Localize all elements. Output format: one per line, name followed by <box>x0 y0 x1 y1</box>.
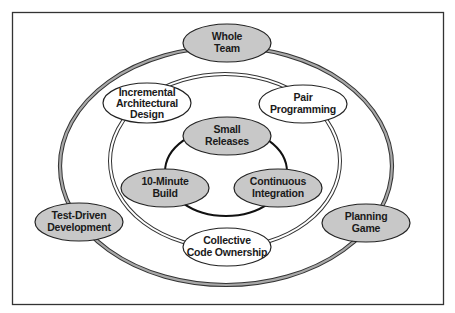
node-incremental-architectural-design: Incremental Architectural Design <box>103 83 191 123</box>
node-label: Code Ownership <box>187 246 268 258</box>
xp-practices-diagram: Whole Team Test-Driven Development Plann… <box>0 0 455 313</box>
node-label: Development <box>47 221 111 233</box>
node-label: Build <box>152 187 177 199</box>
node-pair-programming: Pair Programming <box>259 85 347 123</box>
node-collective-code-ownership: Collective Code Ownership <box>183 228 271 266</box>
node-label: Integration <box>252 187 304 199</box>
node-label: Planning <box>345 210 388 222</box>
node-label: Pair <box>293 91 312 103</box>
node-label: Continuous <box>250 175 307 187</box>
node-10-minute-build: 10-Minute Build <box>121 169 209 207</box>
node-label: Small <box>213 123 240 135</box>
node-label: Design <box>130 108 164 120</box>
node-whole-team: Whole Team <box>183 24 271 62</box>
node-label: Team <box>214 42 240 54</box>
node-label: Game <box>352 222 381 234</box>
node-small-releases: Small Releases <box>183 117 271 155</box>
node-label: Releases <box>205 135 249 147</box>
node-label: Whole <box>212 30 243 42</box>
node-label: Collective <box>203 234 251 246</box>
node-label: 10-Minute <box>141 175 189 187</box>
node-label: Programming <box>270 103 336 115</box>
node-continuous-integration: Continuous Integration <box>234 169 322 207</box>
node-test-driven-development: Test-Driven Development <box>35 203 123 241</box>
node-label: Test-Driven <box>52 209 107 221</box>
node-planning-game: Planning Game <box>322 204 410 242</box>
